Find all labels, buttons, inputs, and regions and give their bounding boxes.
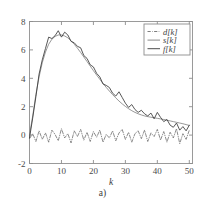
y-tick-label: 6 <box>21 45 26 55</box>
x-tick-label: 50 <box>185 166 195 176</box>
x-tick-label: 10 <box>57 166 67 176</box>
chart-canvas: 01020304050-202468ka)d[k]s[k]f[k] <box>0 0 205 203</box>
x-tick-label: 30 <box>121 166 131 176</box>
y-tick-label: 2 <box>21 102 26 112</box>
x-tick-label: 0 <box>27 166 32 176</box>
legend[interactable]: d[k]s[k]f[k] <box>144 24 190 55</box>
y-tick-label: 0 <box>21 130 26 140</box>
figure-container: 01020304050-202468ka)d[k]s[k]f[k] <box>0 0 205 203</box>
figure-caption: a) <box>99 188 106 199</box>
legend-label-fk: f[k] <box>163 44 176 54</box>
y-tick-label: 8 <box>21 17 26 27</box>
x-tick-label: 20 <box>89 166 99 176</box>
y-tick-label: 4 <box>21 74 26 84</box>
y-tick-label: -2 <box>18 159 26 169</box>
x-axis-label: k <box>109 177 114 187</box>
x-tick-label: 40 <box>153 166 163 176</box>
